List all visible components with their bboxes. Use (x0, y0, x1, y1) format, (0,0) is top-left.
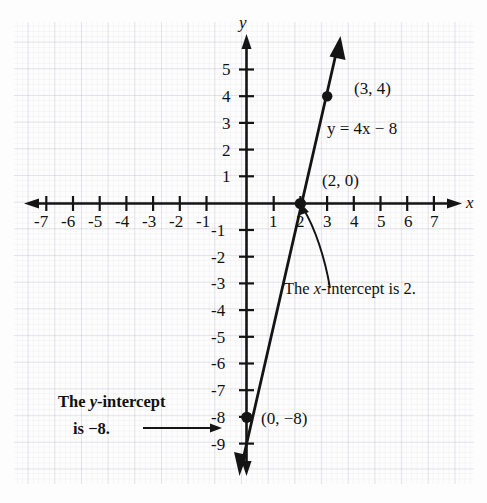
plotted-point-3-4 (322, 91, 332, 101)
x-axis-left-arrowhead (24, 199, 39, 209)
y-intercept-annotation-line1: The y-intercept (58, 394, 165, 411)
y-intercept-annotation-line2: is −8. (73, 421, 110, 438)
x-tick-label--5: -5 (88, 213, 102, 230)
y-intercept-annotation-pre: The (58, 392, 90, 411)
x-tick-label-3: 3 (323, 213, 332, 230)
y-tick-label-2: 2 (222, 142, 231, 159)
point-label-3-4: (3, 4) (354, 80, 391, 97)
x-tick-label--3: -3 (142, 213, 156, 230)
y-tick-label-3: 3 (222, 115, 231, 132)
y-tick-label-5: 5 (222, 61, 231, 78)
x-tick-label--1: -1 (196, 213, 210, 230)
x-tick-label--2: -2 (169, 213, 183, 230)
y-tick-label--3: -3 (211, 275, 225, 292)
y-axis (242, 34, 252, 476)
x-tick-label--4: -4 (115, 213, 129, 230)
y-tick-label--5: -5 (211, 329, 225, 346)
y-tick-label--4: -4 (211, 302, 225, 319)
y-tick-label--1: -1 (211, 222, 225, 239)
x-tick-label-7: 7 (430, 213, 439, 230)
x-intercept-annotation-pre: The (284, 279, 314, 298)
y-intercept-annotation-variable: y (90, 392, 97, 411)
graph-figure: y x -7 -6 -5 -4 -3 -2 -1 1 2 3 4 5 6 7 5… (0, 0, 487, 503)
x-tick-label-4: 4 (350, 213, 359, 230)
x-axis-right-arrowhead (447, 199, 462, 209)
y-tick-label--6: -6 (211, 355, 225, 372)
y-tick-label--2: -2 (211, 249, 225, 266)
y-tick-label-4: 4 (222, 88, 231, 105)
y-tick-label-1: 1 (222, 168, 231, 185)
x-intercept-annotation-post: -intercept is 2. (321, 279, 416, 298)
x-axis-label: x (466, 194, 474, 211)
x-tick-label-1: 1 (269, 213, 278, 230)
x-tick-label-6: 6 (404, 213, 413, 230)
y-tick-label--9: -9 (211, 436, 225, 453)
y-intercept-annotation-post: -intercept (97, 392, 165, 411)
x-tick-label-5: 5 (377, 213, 386, 230)
line-upper-arrowhead (330, 36, 346, 60)
point-label-2-0: (2, 0) (322, 172, 359, 189)
point-label-0-neg8: (0, −8) (261, 410, 307, 427)
plotted-point-0-neg8 (241, 412, 252, 423)
x-axis (24, 199, 462, 209)
y-tick-label--7: -7 (211, 382, 225, 399)
y-axis-top-arrowhead (242, 34, 252, 49)
x-tick-label-2: 2 (296, 213, 305, 230)
equation-label: y = 4x − 8 (327, 120, 397, 137)
x-tick-label--7: -7 (34, 213, 48, 230)
y-axis-label: y (239, 14, 247, 31)
y-tick-label--8: -8 (211, 409, 225, 426)
x-tick-label--6: -6 (61, 213, 75, 230)
x-intercept-annotation-variable: x (314, 279, 321, 298)
x-intercept-annotation: The x-intercept is 2. (284, 281, 416, 298)
